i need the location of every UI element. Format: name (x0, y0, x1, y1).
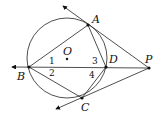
point-o (66, 58, 68, 60)
segment-bc (29, 67, 82, 98)
line-bp (12, 67, 149, 68)
angle-label-3: 3 (92, 57, 98, 66)
angle-label-1: 1 (49, 57, 55, 66)
label-c: C (81, 102, 89, 113)
point-p (147, 66, 150, 69)
angle-label-2: 2 (49, 69, 55, 78)
segment-ba (29, 25, 88, 67)
point-a (86, 23, 89, 26)
point-c (80, 96, 83, 99)
label-p: P (145, 54, 152, 65)
point-d (104, 65, 107, 68)
angle-label-4: 4 (89, 71, 95, 80)
geometry-diagram: A B C D P O 1 2 3 4 (0, 0, 161, 121)
ray-pa (63, 6, 149, 68)
point-b (27, 65, 30, 68)
label-o: O (63, 46, 72, 57)
ray-pc (56, 68, 149, 109)
label-a: A (92, 14, 100, 25)
label-d: D (109, 54, 118, 65)
label-b: B (17, 71, 25, 82)
